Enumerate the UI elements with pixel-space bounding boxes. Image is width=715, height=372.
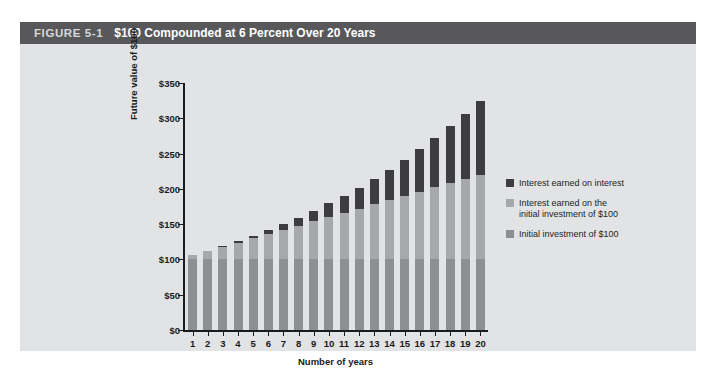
bar-segment-principal [476,259,485,330]
bar-year-7 [279,224,288,330]
x-axis-tick-mark [480,332,481,336]
bar-segment-interest-on-interest [461,114,470,179]
bar-segment-principal [294,259,303,330]
y-axis-tick-label: $250 [159,148,180,159]
bar-year-17 [430,138,439,330]
y-axis-tick-mark [178,224,183,225]
legend-swatch-principal [506,230,514,238]
x-axis-tick-mark [450,332,451,336]
bar-year-15 [400,160,409,330]
legend-item-label: Interest earned on theinitial investment… [519,198,618,220]
x-axis-tick-label: 5 [245,338,261,349]
bar-segment-interest-on-interest [355,188,364,209]
bar-segment-principal [324,259,333,330]
bar-segment-simple-interest [461,179,470,259]
x-axis-tick-label: 6 [260,338,276,349]
x-axis-tick-mark [238,332,239,336]
y-axis-tick-labels: $0$50$100$150$200$250$300$350 [138,44,180,351]
y-axis-tick-mark [178,118,183,119]
bar-segment-simple-interest [385,200,394,259]
bar-segment-simple-interest [279,230,288,260]
bar-segment-principal [249,259,258,330]
legend-item: Interest earned on theinitial investment… [506,198,686,220]
x-axis-tick-mark [390,332,391,336]
bar-segment-simple-interest [309,221,318,259]
x-axis-tick-mark [435,332,436,336]
bar-segment-simple-interest [249,238,258,259]
bar-segment-principal [234,259,243,330]
bar-year-13 [370,179,379,330]
x-axis-tick-label: 15 [397,338,413,349]
x-axis-tick-mark [253,332,254,336]
y-axis-tick-mark [178,295,183,296]
bar-year-5 [249,236,258,330]
bar-segment-principal [385,259,394,330]
bar-segment-simple-interest [415,192,424,260]
bar-segment-interest-on-interest [370,179,379,204]
x-axis-tick-mark [223,332,224,336]
legend-swatch-simple-interest [506,199,514,207]
x-axis-tick-label: 8 [291,338,307,349]
legend-item: Interest earned on interest [506,178,686,189]
figure-title-bar: FIGURE 5-1 $100 Compounded at 6 Percent … [20,22,696,44]
bar-segment-principal [430,259,439,330]
x-axis-tick-mark [405,332,406,336]
x-axis-tick-mark [268,332,269,336]
bar-segment-interest-on-interest [294,218,303,226]
bar-segment-principal [309,259,318,330]
x-axis-tick-label: 3 [215,338,231,349]
bar-segment-interest-on-interest [400,160,409,196]
bar-segment-principal [218,259,227,330]
y-axis-tick-label: $150 [159,219,180,230]
x-axis-tick-label: 16 [412,338,428,349]
x-axis-tick-label: 14 [382,338,398,349]
x-axis-tick-label: 12 [351,338,367,349]
figure-title: $100 Compounded at 6 Percent Over 20 Yea… [114,26,375,40]
x-axis-tick-mark [465,332,466,336]
bar-segment-interest-on-interest [446,126,455,183]
x-axis-tick-label: 1 [185,338,201,349]
legend-swatch-interest-on-interest [506,179,514,187]
bar-year-10 [324,203,333,330]
bar-segment-simple-interest [203,251,212,259]
bar-segment-simple-interest [234,243,243,260]
x-axis-tick-label: 17 [427,338,443,349]
y-axis-tick-mark [178,154,183,155]
bar-segment-simple-interest [340,213,349,260]
bar-segment-interest-on-interest [324,203,333,217]
bar-segment-simple-interest [430,187,439,259]
bar-segment-principal [446,259,455,330]
bar-segment-principal [415,259,424,330]
bar-year-14 [385,170,394,330]
bar-segment-interest-on-interest [476,101,485,175]
bar-segment-simple-interest [294,226,303,260]
x-axis-tick-label: 4 [230,338,246,349]
x-axis-tick-label: 20 [472,338,488,349]
y-axis-tick-mark [178,189,183,190]
bar-segment-principal [340,259,349,330]
bar-segment-simple-interest [218,247,227,260]
x-axis-tick-label: 10 [321,338,337,349]
bar-segment-simple-interest [324,217,333,259]
bar-segment-simple-interest [400,196,409,260]
bar-segment-principal [370,259,379,330]
bar-segment-principal [279,259,288,330]
chart-legend: Interest earned on interestInterest earn… [506,178,686,249]
y-axis-tick-mark [178,83,183,84]
bar-segment-interest-on-interest [415,149,424,191]
bar-year-2 [203,251,212,330]
x-axis-tick-label: 19 [457,338,473,349]
x-axis-tick-label: 9 [306,338,322,349]
bar-segment-simple-interest [355,209,364,260]
bar-series-group [185,83,488,330]
bar-segment-principal [461,259,470,330]
figure-container: FIGURE 5-1 $100 Compounded at 6 Percent … [20,22,696,351]
y-axis-tick-mark [178,330,183,331]
bar-segment-principal [203,259,212,330]
bar-segment-interest-on-interest [385,170,394,201]
bar-segment-principal [188,259,197,330]
x-axis-tick-mark [283,332,284,336]
bar-segment-simple-interest [476,175,485,260]
bar-segment-principal [264,259,273,330]
x-axis-line [183,330,488,332]
